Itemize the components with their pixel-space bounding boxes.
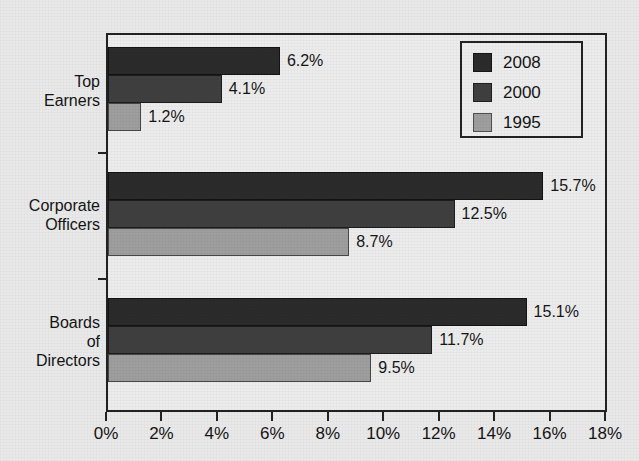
bar-1995-corporate-officers (108, 228, 349, 256)
x-axis-tick-label: 14% (477, 424, 511, 444)
x-axis-tick (549, 412, 551, 421)
x-axis-tick (438, 412, 440, 421)
bar-value-label: 15.7% (543, 172, 595, 200)
x-axis-tick-label: 0% (94, 424, 119, 444)
bar-value-label: 1.2% (141, 103, 184, 131)
bar-2008-corporate-officers (108, 172, 543, 200)
legend-item-1995: 1995 (473, 111, 541, 133)
x-axis-tick (493, 412, 495, 421)
bar-value-label: 12.5% (455, 200, 507, 228)
y-axis-tick-1 (98, 152, 107, 154)
bar-2000-boards-of-directors (108, 326, 432, 354)
x-axis-tick-label: 12% (422, 424, 456, 444)
bar-2000-corporate-officers (108, 200, 455, 228)
legend-box: 2008 2000 1995 (460, 41, 583, 138)
bar-value-label: 11.7% (432, 326, 483, 354)
x-axis-tick (160, 412, 162, 421)
legend-label-2000: 2000 (503, 83, 541, 102)
legend-label-2008: 2008 (503, 53, 541, 72)
x-axis-tick (604, 412, 606, 421)
x-axis-tick-label: 6% (260, 424, 285, 444)
bar-2008-top-earners (108, 47, 280, 75)
x-axis-tick-label: 10% (366, 424, 400, 444)
legend-item-2000: 2000 (473, 81, 541, 103)
x-axis-tick-label: 8% (315, 424, 340, 444)
category-label-line: Earners (4, 91, 100, 110)
category-label-line: Officers (4, 215, 100, 234)
category-label-boards-of-directors: Boards of Directors (4, 313, 100, 370)
x-axis-tick-label: 16% (533, 424, 567, 444)
bar-value-label: 8.7% (349, 228, 392, 256)
bar-value-label: 15.1% (527, 298, 579, 326)
x-axis-tick (105, 412, 107, 421)
bar-1995-boards-of-directors (108, 354, 371, 382)
bar-value-label: 6.2% (280, 47, 323, 75)
category-label-corporate-officers: Corporate Officers (4, 196, 100, 234)
category-label-line: Top (4, 72, 100, 91)
bar-2008-boards-of-directors (108, 298, 527, 326)
category-label-line: Corporate (4, 196, 100, 215)
bar-2000-top-earners (108, 75, 222, 103)
legend-swatch-1995 (473, 113, 492, 132)
legend-swatch-2008 (473, 53, 492, 72)
x-axis-tick (327, 412, 329, 421)
bar-value-label: 4.1% (222, 75, 265, 103)
category-label-line: Boards (4, 313, 100, 332)
legend-swatch-2000 (473, 83, 492, 102)
x-axis-tick-label: 4% (205, 424, 230, 444)
bar-value-label: 9.5% (371, 354, 414, 382)
category-label-line: Directors (4, 351, 100, 370)
x-axis-tick (382, 412, 384, 421)
x-axis-tick (271, 412, 273, 421)
category-label-top-earners: Top Earners (4, 72, 100, 110)
y-axis-tick-2 (98, 278, 107, 280)
x-axis-tick-label: 2% (149, 424, 174, 444)
bar-1995-top-earners (108, 103, 141, 131)
chart-figure: 6.2%4.1%1.2%15.7%12.5%8.7%15.1%11.7%9.5%… (0, 0, 639, 461)
legend-item-2008: 2008 (473, 51, 541, 73)
legend-label-1995: 1995 (503, 113, 541, 132)
x-axis-tick-label: 18% (588, 424, 622, 444)
category-label-line: of (4, 332, 100, 351)
x-axis-tick (216, 412, 218, 421)
